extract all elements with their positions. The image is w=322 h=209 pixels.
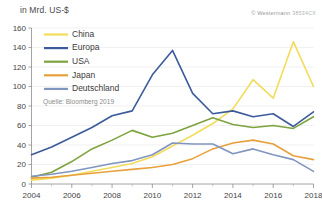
source-note: Quelle: Bloomberg 2019 <box>43 98 114 106</box>
y-axis-tick-label: 80 <box>17 102 26 111</box>
y-axis-tick-label: 20 <box>17 160 26 169</box>
legend-label-china: China <box>72 29 94 39</box>
x-axis-tick-label: 2006 <box>63 191 81 200</box>
x-axis-tick-label: 2014 <box>224 191 242 200</box>
legend-label-deutschland: Deutschland <box>72 83 120 93</box>
y-axis: 020406080100120140160 <box>13 24 32 189</box>
x-axis-tick-label: 2010 <box>143 191 161 200</box>
y-axis-tick-label: 120 <box>13 63 27 72</box>
x-axis-tick-label: 2008 <box>103 191 121 200</box>
legend-label-japan: Japan <box>72 70 95 80</box>
y-axis-tick-label: 40 <box>17 141 26 150</box>
y-axis-tick-label: 160 <box>13 24 27 33</box>
y-axis-tick-label: 60 <box>17 121 26 130</box>
chart-container: in Mrd. US-$ © Westermann38534CX 0204060… <box>0 0 322 209</box>
x-axis-tick-label: 2004 <box>23 191 41 200</box>
y-axis-tick-label: 140 <box>13 43 27 52</box>
line-chart-plot: 020406080100120140160 200420062008201020… <box>0 0 322 209</box>
legend-label-europa: Europa <box>72 42 100 52</box>
x-axis-tick-label: 2012 <box>184 191 202 200</box>
x-axis-tick-label: 2018 <box>305 191 322 200</box>
legend-label-usa: USA <box>72 56 90 66</box>
x-axis-tick-label: 2016 <box>264 191 282 200</box>
y-axis-tick-label: 0 <box>22 180 27 189</box>
x-axis: 20042006200820102012201420162018 <box>23 184 322 200</box>
y-axis-tick-label: 100 <box>13 82 27 91</box>
